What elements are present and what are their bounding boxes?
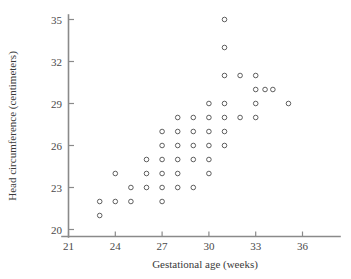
y-axis-ticks (69, 20, 75, 230)
data-point (175, 171, 180, 176)
axis-lines (62, 15, 340, 237)
data-point (222, 115, 227, 120)
y-tick-label: 23 (51, 182, 63, 194)
data-point (207, 171, 212, 176)
data-point (160, 199, 165, 204)
data-point (97, 213, 102, 218)
data-point (253, 87, 258, 92)
data-point (207, 115, 212, 120)
y-axis-title: Head circumference (centimeters) (6, 51, 19, 201)
y-tick-label: 26 (51, 140, 63, 152)
data-point-layer (97, 17, 290, 218)
data-point (191, 115, 196, 120)
data-point (191, 129, 196, 134)
data-point (144, 171, 149, 176)
data-point (160, 129, 165, 134)
data-point (160, 185, 165, 190)
x-tick-label: 33 (250, 240, 262, 252)
data-point (253, 73, 258, 78)
data-point (97, 199, 102, 204)
data-point (129, 199, 134, 204)
data-point (207, 143, 212, 148)
data-point (222, 143, 227, 148)
data-point (222, 45, 227, 50)
data-point (191, 157, 196, 162)
data-point (160, 157, 165, 162)
data-point (207, 157, 212, 162)
y-tick-label: 20 (51, 224, 63, 236)
data-point (191, 185, 196, 190)
x-tick-label: 30 (203, 240, 215, 252)
x-tick-label: 27 (157, 240, 169, 252)
data-point (160, 143, 165, 148)
x-tick-label: 21 (63, 240, 74, 252)
data-point (222, 73, 227, 78)
data-point (144, 157, 149, 162)
data-point (175, 157, 180, 162)
data-point (271, 87, 276, 92)
data-point (175, 185, 180, 190)
x-tick-label: 36 (297, 240, 309, 252)
data-point (222, 129, 227, 134)
data-point (286, 101, 291, 106)
data-point (238, 115, 243, 120)
scatter-plot-figure: 212427303336 202326293235 Gestational ag… (0, 0, 351, 279)
data-point (160, 171, 165, 176)
y-tick-label: 29 (51, 98, 63, 110)
y-tick-label: 32 (51, 56, 62, 68)
data-point (175, 115, 180, 120)
y-axis-tick-labels: 202326293235 (51, 14, 63, 236)
data-point (175, 129, 180, 134)
data-point (238, 73, 243, 78)
x-tick-label: 24 (110, 240, 122, 252)
data-point (113, 199, 118, 204)
data-point (222, 17, 227, 22)
data-point (263, 87, 268, 92)
data-point (129, 185, 134, 190)
data-point (207, 101, 212, 106)
data-point (222, 101, 227, 106)
data-point (207, 129, 212, 134)
data-point (113, 171, 118, 176)
x-axis-tick-labels: 212427303336 (63, 240, 309, 252)
y-tick-label: 35 (51, 14, 63, 26)
data-point (144, 185, 149, 190)
data-point (253, 115, 258, 120)
x-axis-title: Gestational age (weeks) (152, 258, 258, 271)
data-point (253, 101, 258, 106)
data-point (191, 143, 196, 148)
plot-canvas: 212427303336 202326293235 Gestational ag… (0, 0, 351, 279)
data-point (175, 143, 180, 148)
